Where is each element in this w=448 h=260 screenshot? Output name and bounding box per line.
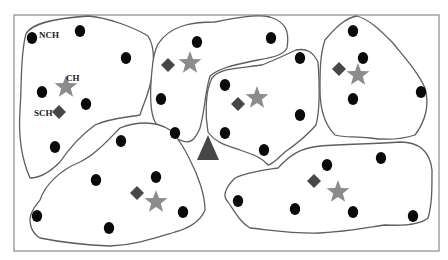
sensor-node-icon (116, 135, 126, 147)
sensor-node-icon (348, 25, 358, 37)
cluster-boundary-top-right (320, 16, 427, 139)
sensor-node-icon (81, 98, 91, 110)
sensor-node-icon (290, 203, 300, 215)
label-ch: CH (66, 73, 80, 83)
sensor-node-icon (348, 206, 358, 218)
sensor-node-icon (192, 36, 202, 48)
sensor-node-icon (259, 144, 269, 156)
sensor-node-icon (178, 206, 188, 218)
sensor-node-icon (170, 127, 180, 139)
sensor-node-icon (295, 109, 305, 121)
sensor-node-icon (408, 210, 418, 222)
sensor-node-icon (50, 141, 60, 153)
sensor-node-icon (295, 52, 305, 64)
sensor-node-icon (322, 159, 332, 171)
sensor-node-icon (27, 32, 37, 44)
sensor-node-icon (121, 52, 131, 64)
sensor-node-icon (266, 32, 276, 44)
sensor-node-icon (104, 222, 114, 234)
sensor-node-icon (348, 93, 358, 105)
label-nch: NCH (39, 30, 59, 40)
sensor-node-icon (233, 195, 243, 207)
network-cluster-diagram: NCH CH SCH (0, 0, 448, 260)
sensor-node-icon (220, 79, 230, 91)
label-sch: SCH (34, 108, 53, 118)
sensor-node-icon (75, 25, 85, 37)
sensor-node-icon (32, 210, 42, 222)
sensor-node-icon (151, 171, 161, 183)
sensor-node-icon (156, 93, 166, 105)
sensor-node-icon (376, 152, 386, 164)
sensor-node-icon (416, 86, 426, 98)
sensor-node-icon (358, 52, 368, 64)
sensor-node-icon (91, 174, 101, 186)
sensor-node-icon (37, 86, 47, 98)
sensor-node-icon (220, 127, 230, 139)
